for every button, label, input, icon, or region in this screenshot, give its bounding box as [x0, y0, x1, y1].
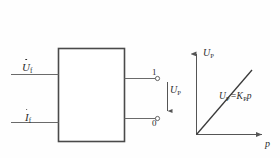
phasor-dot-icon — [26, 109, 28, 111]
transducer-block — [59, 49, 125, 142]
phasor-dot-icon — [25, 59, 27, 61]
diagram-vector-layer — [0, 0, 280, 158]
output-voltage-arrow-label: UP — [170, 85, 181, 95]
slope-equation-label: UP =KPp — [219, 92, 251, 102]
chart-y-axis-label: UP — [203, 48, 214, 58]
input-current-phasor-label: If — [25, 112, 31, 123]
linear-characteristic-line — [197, 70, 253, 135]
output-terminal-1-label: 1 — [152, 68, 157, 77]
chart-x-axis-label: p — [265, 139, 270, 149]
output-terminal-0-label: 0 — [152, 119, 157, 128]
diagram-canvas: Uf If 1 0 UP UP p UP =KPp — [0, 0, 280, 158]
input-voltage-phasor-label: Uf — [22, 62, 32, 73]
output-terminal-1-node — [155, 76, 159, 80]
